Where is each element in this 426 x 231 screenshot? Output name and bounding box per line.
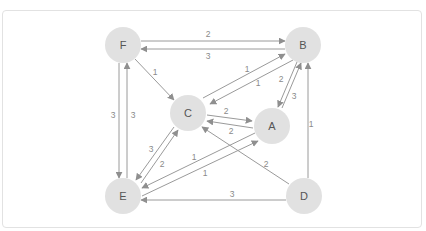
edge-weight-label: 2 (264, 159, 269, 169)
edge-f-to-c: 1 (135, 59, 174, 100)
arrow-icon (203, 54, 285, 98)
nodes-layer: FBCAED (105, 27, 322, 214)
edge-weight-label: 3 (149, 144, 154, 154)
edge-weight-label: 3 (111, 110, 116, 120)
edge-d-to-e: 3 (141, 189, 286, 200)
edge-weight-label: 3 (292, 91, 297, 101)
edge-weight-label: 1 (153, 67, 158, 77)
edge-a-to-c: 2 (207, 121, 253, 136)
edge-weight-label: 2 (279, 74, 284, 84)
node-label: B (299, 39, 306, 51)
edge-weight-label: 2 (224, 106, 229, 116)
node-label: D (300, 190, 308, 202)
edge-weight-label: 1 (256, 78, 261, 88)
edge-c-to-e: 3 (136, 127, 174, 180)
node-e: E (105, 178, 141, 214)
edge-weight-label: 1 (192, 152, 197, 162)
edge-weight-label: 1 (203, 168, 208, 178)
edge-weight-label: 3 (230, 189, 235, 199)
node-label: A (268, 120, 276, 132)
edge-b-to-f: 3 (141, 49, 285, 61)
edge-weight-label: 2 (229, 126, 234, 136)
graph-canvas: 231112322233321131 FBCAED (0, 0, 426, 231)
edge-weight-label: 2 (206, 29, 211, 39)
edge-f-to-b: 2 (141, 29, 285, 41)
node-a: A (254, 108, 290, 144)
edge-a-to-b: 3 (282, 63, 301, 108)
node-b: B (285, 27, 321, 63)
edge-f-to-e: 3 (111, 63, 119, 178)
node-f: F (105, 27, 141, 63)
edge-weight-label: 3 (206, 51, 211, 61)
node-c: C (170, 95, 206, 131)
edge-e-to-f: 3 (127, 63, 136, 178)
node-label: F (120, 39, 127, 51)
arrow-icon (282, 63, 301, 108)
edge-c-to-b: 1 (203, 54, 285, 98)
node-d: D (286, 178, 322, 214)
edge-weight-label: 1 (245, 64, 250, 74)
arrow-icon (141, 130, 178, 183)
edge-weight-label: 2 (160, 159, 165, 169)
edge-c-to-a: 2 (207, 106, 252, 121)
edge-weight-label: 1 (309, 119, 314, 129)
arrow-icon (135, 59, 174, 100)
edge-d-to-b: 1 (308, 63, 314, 178)
edge-e-to-c: 2 (141, 130, 178, 183)
node-label: C (184, 107, 192, 119)
node-label: E (119, 190, 126, 202)
edge-weight-label: 3 (131, 110, 136, 120)
arrow-icon (136, 127, 174, 180)
arrow-icon (207, 115, 252, 121)
